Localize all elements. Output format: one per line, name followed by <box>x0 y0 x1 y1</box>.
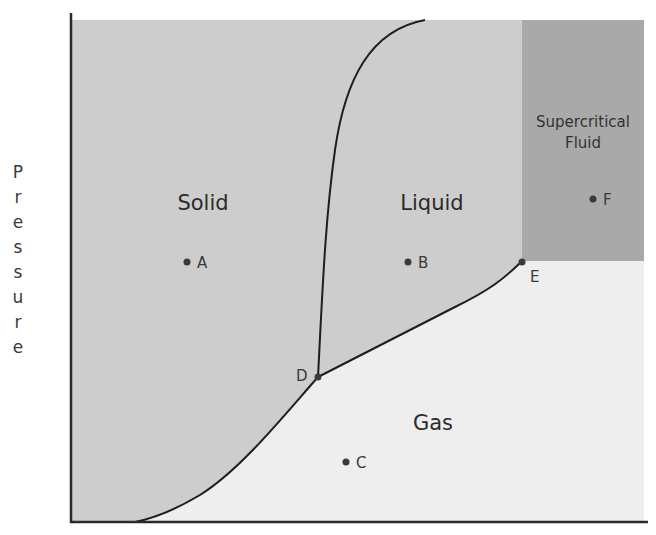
ylabel-letter: r <box>15 312 22 332</box>
ylabel-letter: r <box>15 187 22 207</box>
supercritical-label-line2: Fluid <box>565 134 601 152</box>
point-a-label: A <box>197 254 208 272</box>
point-a-marker <box>184 259 191 266</box>
point-f-marker <box>590 196 597 203</box>
phase-diagram: P r e s s u r e Solid Liquid Gas Supercr… <box>0 0 656 535</box>
y-axis-label: P r e s s u r e <box>13 162 24 357</box>
ylabel-letter: s <box>14 262 23 282</box>
point-c-label: C <box>356 454 366 472</box>
ylabel-letter: e <box>13 337 23 357</box>
point-f-label: F <box>603 191 612 209</box>
point-c-marker <box>343 459 350 466</box>
point-b-label: B <box>418 254 428 272</box>
ylabel-letter: P <box>13 162 23 182</box>
point-e-marker <box>519 259 526 266</box>
ylabel-letter: s <box>14 237 23 257</box>
point-b-marker <box>405 259 412 266</box>
point-d-label: D <box>296 367 308 385</box>
point-e-label: E <box>530 268 539 286</box>
ylabel-letter: u <box>13 287 24 307</box>
ylabel-letter: e <box>13 212 23 232</box>
solid-label: Solid <box>177 191 228 215</box>
gas-label: Gas <box>413 411 453 435</box>
liquid-label: Liquid <box>400 191 463 215</box>
supercritical-label-line1: Supercritical <box>536 113 630 131</box>
point-d-marker <box>315 374 322 381</box>
